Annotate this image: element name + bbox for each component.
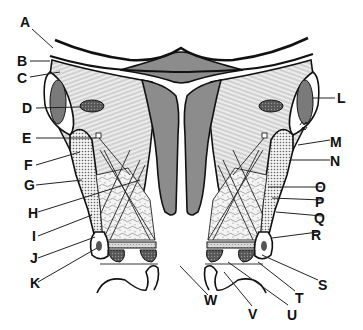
label-N: N (330, 153, 340, 169)
left-bone-dark-fill (50, 80, 66, 124)
label-M: M (330, 134, 342, 150)
label-H: H (28, 205, 38, 221)
left-skin-fold (97, 266, 159, 293)
right-perineal-membrane (207, 242, 257, 248)
left-tuberosity-core (96, 241, 102, 251)
left-nerve-E (96, 133, 101, 138)
pelvic-cross-section-diagram: A B C D E F G H I J K L M N O P Q R S T … (0, 0, 363, 330)
right-skin-fold (205, 266, 267, 293)
label-P: P (315, 194, 324, 210)
left-bulb-outer (108, 250, 125, 262)
right-vessel (259, 100, 283, 112)
label-S: S (318, 277, 327, 293)
left-bulb-inner (140, 250, 157, 262)
label-A: A (20, 14, 30, 30)
label-V: V (248, 306, 258, 322)
label-E: E (22, 130, 31, 146)
uterus-body (120, 52, 243, 83)
labels-bottom: W V U (204, 292, 297, 323)
label-G: G (24, 177, 35, 193)
label-O: O (315, 179, 326, 195)
label-T: T (295, 290, 304, 306)
label-C: C (17, 70, 27, 86)
label-K: K (30, 275, 40, 291)
label-Q: Q (314, 210, 325, 226)
left-half (44, 60, 158, 293)
right-bone-dark-fill (297, 80, 313, 124)
label-D: D (22, 100, 32, 116)
left-perineal-membrane (106, 242, 156, 248)
label-J: J (30, 250, 38, 266)
right-nerve (262, 133, 267, 138)
label-U: U (287, 307, 297, 323)
right-tuberosity-core (261, 241, 267, 251)
label-F: F (24, 157, 33, 173)
right-half (205, 60, 319, 293)
label-L: L (337, 90, 346, 106)
left-vessel-D (80, 100, 104, 112)
label-R: R (311, 227, 321, 243)
label-I: I (32, 228, 36, 244)
label-B: B (17, 53, 27, 69)
right-bulb-inner (207, 250, 224, 262)
right-bulb-outer (239, 250, 256, 262)
labels-left: A B C D E F G H I J K (17, 14, 40, 291)
label-W: W (204, 292, 218, 308)
